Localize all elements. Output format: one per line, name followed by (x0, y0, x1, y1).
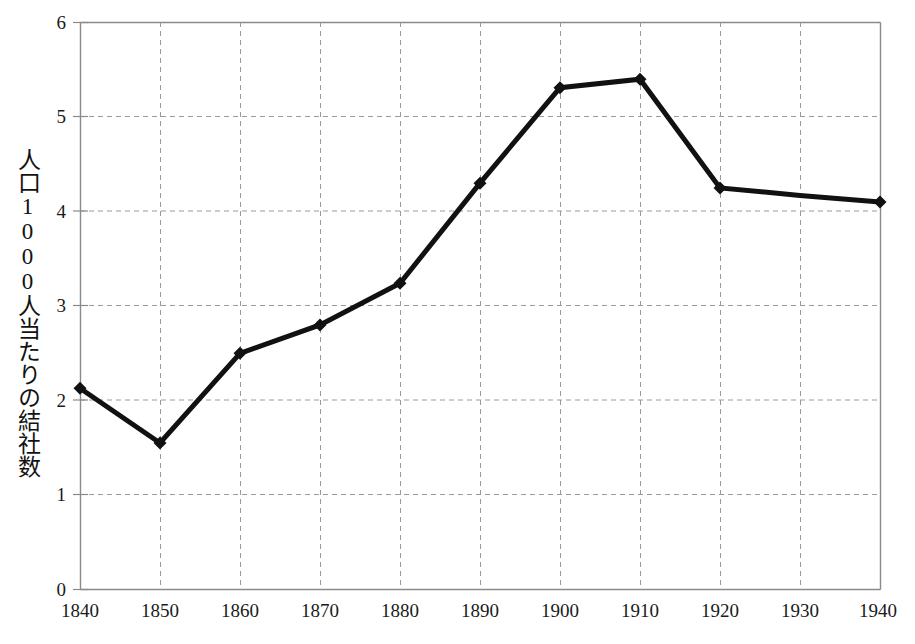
xtick-label-1860: 1860 (221, 600, 259, 621)
xtick-label-1890: 1890 (461, 600, 499, 621)
xtick-label-1840: 1840 (61, 600, 99, 621)
xtick-label-1940: 1940 (859, 600, 897, 621)
xtick-label-1870: 1870 (301, 600, 339, 621)
xtick-label-1910: 1910 (621, 600, 659, 621)
ytick-label-0: 0 (57, 579, 67, 600)
xtick-label-1930: 1930 (781, 600, 819, 621)
x-tick-labels: 1840 1850 1860 1870 1880 1890 1900 1910 … (61, 600, 897, 621)
ytick-label-2: 2 (57, 390, 67, 411)
xtick-label-1900: 1900 (541, 600, 579, 621)
ytick-label-1: 1 (57, 484, 67, 505)
ytick-label-4: 4 (57, 201, 67, 222)
xtick-label-1850: 1850 (141, 600, 179, 621)
ytick-label-5: 5 (57, 106, 67, 127)
y-tick-labels: 0 1 2 3 4 5 6 (57, 12, 67, 600)
ytick-label-3: 3 (57, 295, 67, 316)
xtick-label-1920: 1920 (701, 600, 739, 621)
ytick-label-6: 6 (57, 12, 67, 33)
chart-figure: 人口1000人当たりの結社数 (0, 0, 915, 644)
line-chart-plot: 0 1 2 3 4 5 6 1840 1850 1860 1870 1880 1… (0, 0, 915, 644)
data-point-marker-1940 (874, 196, 887, 209)
xtick-label-1880: 1880 (381, 600, 419, 621)
